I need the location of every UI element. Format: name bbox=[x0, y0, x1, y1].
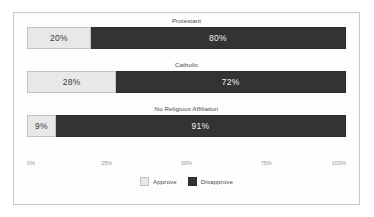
bar-segment-disapprove[interactable]: 91% bbox=[56, 115, 346, 137]
bar-segment-value: 91% bbox=[192, 121, 210, 131]
legend-label-approve: Approve bbox=[153, 178, 177, 185]
bar-segment-approve[interactable]: 9% bbox=[27, 115, 56, 137]
x-axis-tick-25: 25% bbox=[101, 159, 112, 167]
bar-segment-approve[interactable]: 20% bbox=[27, 27, 91, 49]
x-axis-tick-50: 50% bbox=[181, 159, 192, 167]
bar-group-no-religious-affiliation: No Religious Affiliation 9% 91% bbox=[27, 105, 346, 137]
x-axis-tick-100: 100% bbox=[332, 159, 346, 167]
bar-group-catholic: Catholic 28% 72% bbox=[27, 61, 346, 93]
x-axis-tick-75: 75% bbox=[261, 159, 272, 167]
stacked-bar-catholic[interactable]: 28% 72% bbox=[27, 71, 346, 93]
x-axis-tick-0: 0% bbox=[27, 159, 35, 167]
bar-segment-approve[interactable]: 28% bbox=[27, 71, 116, 93]
legend-swatch-icon-approve bbox=[140, 177, 149, 186]
legend-swatch-icon-disapprove bbox=[188, 177, 197, 186]
bar-category-label: No Religious Affiliation bbox=[27, 105, 346, 113]
stacked-bar-no-religious-affiliation[interactable]: 9% 91% bbox=[27, 115, 346, 137]
legend-label-disapprove: Disapprove bbox=[201, 178, 233, 185]
bar-segment-value: 9% bbox=[35, 121, 48, 131]
legend-item-disapprove[interactable]: Disapprove bbox=[188, 177, 233, 186]
bar-segment-value: 20% bbox=[50, 33, 68, 43]
legend-item-approve[interactable]: Approve bbox=[140, 177, 177, 186]
bar-category-label: Protestant bbox=[27, 17, 346, 25]
bar-segment-value: 28% bbox=[63, 77, 81, 87]
plot-area: Protestant 20% 80% Catholic 28% bbox=[27, 17, 346, 157]
chart-legend: Approve Disapprove bbox=[14, 177, 359, 186]
x-axis: 0% 25% 50% 75% 100% bbox=[27, 159, 346, 169]
chart-screenshot: Protestant 20% 80% Catholic 28% bbox=[0, 0, 374, 217]
bar-group-protestant: Protestant 20% 80% bbox=[27, 17, 346, 49]
bar-segment-disapprove[interactable]: 80% bbox=[91, 27, 346, 49]
chart-frame: Protestant 20% 80% Catholic 28% bbox=[13, 12, 360, 205]
stacked-bar-protestant[interactable]: 20% 80% bbox=[27, 27, 346, 49]
bar-segment-value: 80% bbox=[209, 33, 227, 43]
bar-segment-value: 72% bbox=[222, 77, 240, 87]
bar-category-label: Catholic bbox=[27, 61, 346, 69]
bar-segment-disapprove[interactable]: 72% bbox=[116, 71, 346, 93]
